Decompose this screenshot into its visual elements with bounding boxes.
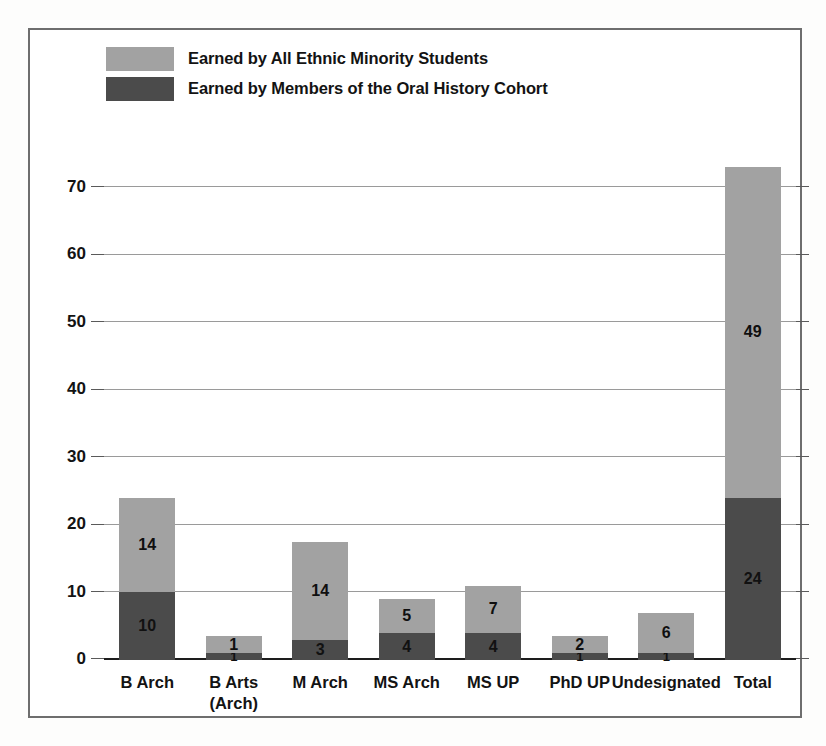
y-tick-right-40 xyxy=(796,389,809,390)
bar-segment-oral-history-cohort[interactable]: 1 xyxy=(552,653,608,660)
bar-segment-oral-history-cohort[interactable]: 10 xyxy=(119,592,175,660)
bar-segment-oral-history-cohort[interactable]: 3 xyxy=(292,640,348,660)
bar-segment-all-ethnic-minority[interactable]: 14 xyxy=(119,498,175,593)
bar-group[interactable]: 12 xyxy=(552,140,608,660)
legend-label-all-ethnic-minority-students: Earned by All Ethnic Minority Students xyxy=(188,49,488,68)
bar-segment-all-ethnic-minority[interactable]: 14 xyxy=(292,542,348,640)
y-tick-40 xyxy=(91,389,104,390)
x-axis-category-line: Undesignated xyxy=(612,672,721,693)
x-axis-category-line: MS UP xyxy=(467,672,519,693)
bar-value-label: 1 xyxy=(229,637,238,653)
y-axis-label-30: 30 xyxy=(67,447,86,467)
x-axis-category-label: PhD UP xyxy=(549,672,610,693)
y-tick-20 xyxy=(91,524,104,525)
plot-area: 0102030405060701014B Arch11B Arts(Arch)3… xyxy=(104,140,796,660)
bar-value-label: 14 xyxy=(138,537,156,553)
bar-segment-all-ethnic-minority[interactable]: 49 xyxy=(725,167,781,498)
x-axis-category-line: B Arts xyxy=(209,672,258,693)
y-tick-0 xyxy=(91,658,104,659)
x-axis-category-line: Total xyxy=(734,672,772,693)
x-axis-category-label: B Arch xyxy=(121,672,174,693)
bar-value-label: 49 xyxy=(744,324,762,340)
bar-group[interactable]: 45 xyxy=(379,140,435,660)
chart-legend: Earned by All Ethnic Minority Students E… xyxy=(106,46,548,101)
bar-segment-all-ethnic-minority[interactable]: 7 xyxy=(465,586,521,633)
bar-value-label: 4 xyxy=(489,639,498,655)
bar-group[interactable]: 314 xyxy=(292,140,348,660)
legend-swatch-dark-gray xyxy=(106,77,174,101)
bar-group[interactable]: 11 xyxy=(206,140,262,660)
y-axis-label-0: 0 xyxy=(77,649,86,669)
bar-group[interactable]: 47 xyxy=(465,140,521,660)
bar-segment-all-ethnic-minority[interactable]: 5 xyxy=(379,599,435,633)
chart-frame: Earned by All Ethnic Minority Students E… xyxy=(28,28,802,718)
x-axis-category-label: B Arts(Arch) xyxy=(209,672,258,713)
bar-segment-oral-history-cohort[interactable]: 1 xyxy=(206,653,262,660)
bar-segment-all-ethnic-minority[interactable]: 6 xyxy=(638,613,694,654)
y-tick-right-20 xyxy=(796,524,809,525)
legend-item-oral-history-cohort: Earned by Members of the Oral History Co… xyxy=(106,76,548,101)
y-axis-label-70: 70 xyxy=(67,177,86,197)
bar-segment-all-ethnic-minority[interactable]: 1 xyxy=(206,636,262,653)
legend-swatch-light-gray xyxy=(106,47,174,71)
y-tick-30 xyxy=(91,456,104,457)
bar-stack[interactable]: 314 xyxy=(292,542,348,660)
y-tick-right-70 xyxy=(796,186,809,187)
bar-value-label: 4 xyxy=(402,639,411,655)
bar-value-label: 24 xyxy=(744,571,762,587)
y-tick-10 xyxy=(91,591,104,592)
legend-label-oral-history-cohort: Earned by Members of the Oral History Co… xyxy=(188,79,548,98)
x-axis-category-line: M Arch xyxy=(293,672,348,693)
y-tick-right-60 xyxy=(796,254,809,255)
y-axis-label-10: 10 xyxy=(67,582,86,602)
bar-value-label: 2 xyxy=(575,637,584,653)
bar-value-label: 3 xyxy=(316,642,325,658)
bar-stack[interactable]: 11 xyxy=(206,636,262,660)
x-axis-category-line: (Arch) xyxy=(209,693,258,714)
legend-item-all-ethnic-minority-students: Earned by All Ethnic Minority Students xyxy=(106,46,548,71)
bar-group[interactable]: 2449 xyxy=(725,140,781,660)
bar-stack[interactable]: 16 xyxy=(638,613,694,660)
y-tick-50 xyxy=(91,321,104,322)
y-axis-label-40: 40 xyxy=(67,379,86,399)
bar-value-label: 7 xyxy=(489,601,498,617)
bar-stack[interactable]: 1014 xyxy=(119,498,175,660)
bar-group[interactable]: 1014 xyxy=(119,140,175,660)
y-axis-label-60: 60 xyxy=(67,244,86,264)
bar-stack[interactable]: 45 xyxy=(379,599,435,660)
y-tick-60 xyxy=(91,254,104,255)
bar-segment-oral-history-cohort[interactable]: 4 xyxy=(465,633,521,660)
x-axis-category-label: M Arch xyxy=(293,672,348,693)
chart-page: Earned by All Ethnic Minority Students E… xyxy=(0,0,826,746)
bar-value-label: 5 xyxy=(402,608,411,624)
bar-segment-oral-history-cohort[interactable]: 1 xyxy=(638,653,694,660)
x-axis-category-line: MS Arch xyxy=(374,672,440,693)
bar-value-label: 6 xyxy=(662,625,671,641)
x-axis-category-line: B Arch xyxy=(121,672,174,693)
bar-value-label: 10 xyxy=(138,618,156,634)
y-tick-right-50 xyxy=(796,321,809,322)
x-axis-category-label: MS UP xyxy=(467,672,519,693)
bar-stack[interactable]: 2449 xyxy=(725,167,781,660)
x-axis-category-label: Total xyxy=(734,672,772,693)
x-axis-category-label: MS Arch xyxy=(374,672,440,693)
x-axis-category-label: Undesignated xyxy=(612,672,721,693)
bar-stack[interactable]: 47 xyxy=(465,586,521,660)
bar-value-label: 14 xyxy=(311,583,329,599)
y-axis-label-50: 50 xyxy=(67,312,86,332)
bar-segment-all-ethnic-minority[interactable]: 2 xyxy=(552,636,608,653)
y-tick-right-10 xyxy=(796,591,809,592)
bar-segment-oral-history-cohort[interactable]: 24 xyxy=(725,498,781,660)
y-tick-right-0 xyxy=(796,658,809,659)
y-tick-70 xyxy=(91,186,104,187)
bar-segment-oral-history-cohort[interactable]: 4 xyxy=(379,633,435,660)
bar-stack[interactable]: 12 xyxy=(552,636,608,660)
y-tick-right-30 xyxy=(796,456,809,457)
y-axis-label-20: 20 xyxy=(67,514,86,534)
bar-group[interactable]: 16 xyxy=(638,140,694,660)
x-axis-category-line: PhD UP xyxy=(549,672,610,693)
